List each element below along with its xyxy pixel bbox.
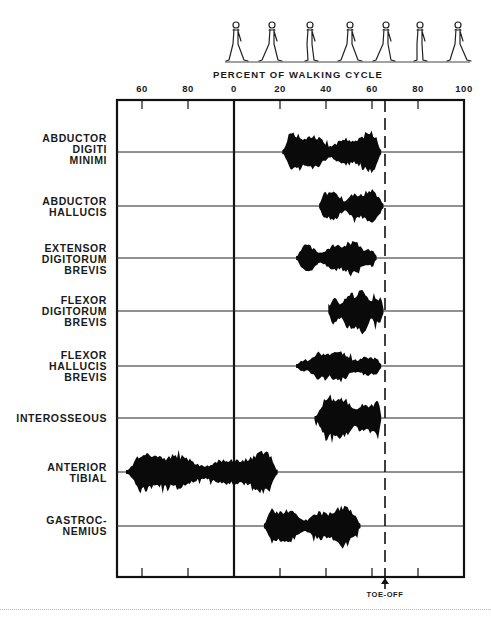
walking-figure-icon <box>305 22 318 61</box>
walking-figures <box>226 22 471 61</box>
emg-burst <box>264 506 361 549</box>
bottom-divider <box>0 609 491 610</box>
toe-off-arrow-icon <box>381 577 389 589</box>
walking-figure-icon <box>259 22 282 61</box>
x-tick-label: 20 <box>274 83 286 94</box>
x-axis-title: PERCENT OF WALKING CYCLE <box>213 69 383 80</box>
x-tick-label: 60 <box>136 83 148 94</box>
emg-burst <box>296 351 381 382</box>
walking-figure-icon <box>226 22 248 61</box>
x-tick-label: 0 <box>231 83 237 94</box>
emg-burst <box>328 290 383 335</box>
emg-gait-figure: PERCENT OF WALKING CYCLE 608002040608010… <box>0 0 491 618</box>
toe-off-label: TOE-OFF <box>367 590 404 599</box>
emg-bursts <box>126 130 384 548</box>
muscle-label: ANTERIOR TIBIAL <box>47 462 107 484</box>
muscle-label: FLEXOR DIGITORUM BREVIS <box>42 295 107 328</box>
axis-ticks <box>142 100 418 577</box>
muscle-label: EXTENSOR DIGITORUM BREVIS <box>42 243 107 276</box>
muscle-label: ABDUCTOR DIGITI MINIMI <box>42 133 107 166</box>
walking-figure-icon <box>414 22 427 61</box>
walking-figure-icon <box>447 22 471 61</box>
x-tick-label: 80 <box>412 83 424 94</box>
emg-burst <box>296 241 377 277</box>
x-tick-label: 80 <box>182 83 194 94</box>
x-tick-label: 40 <box>320 83 332 94</box>
emg-burst <box>282 130 381 173</box>
muscle-label: INTEROSSEOUS <box>16 413 107 424</box>
muscle-label: GASTROC- NEMIUS <box>46 515 107 537</box>
plot-frame <box>117 100 464 577</box>
walking-figure-icon <box>338 22 362 61</box>
x-tick-label: 60 <box>366 83 378 94</box>
x-tick-label: 100 <box>455 83 472 94</box>
muscle-label: FLEXOR HALLUCIS BREVIS <box>49 350 107 383</box>
emg-burst <box>126 450 278 494</box>
walking-figure-icon <box>373 22 395 61</box>
emg-burst <box>319 189 383 223</box>
muscle-label: ABDUCTOR HALLUCIS <box>42 196 107 218</box>
emg-burst <box>315 394 382 443</box>
